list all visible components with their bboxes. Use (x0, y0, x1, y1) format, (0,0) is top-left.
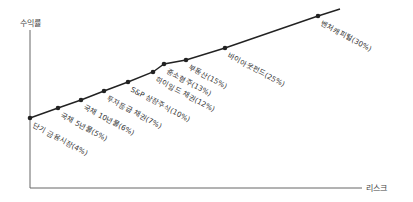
data-point (28, 116, 33, 121)
data-point (79, 98, 84, 103)
data-point (56, 106, 61, 111)
risk-return-diagram: 수익률 리스크 단기 금융시장(4%)국채 5년물(5%)국채 10년물(6%)… (0, 0, 413, 202)
data-point (223, 46, 228, 51)
data-point (126, 80, 131, 85)
data-point (151, 70, 156, 75)
point-label: 벤처캐피털(30%) (319, 19, 373, 54)
data-points: 단기 금융시장(4%)국채 5년물(5%)국채 10년물(6%)투자등급 채권(… (28, 14, 374, 158)
data-point (184, 58, 189, 63)
point-label: 바이아웃펀드(25%) (226, 51, 287, 89)
data-point (162, 62, 167, 67)
x-axis-label: 리스크 (366, 184, 387, 193)
data-point (316, 14, 321, 19)
risk-return-line (30, 9, 340, 118)
y-axis-label: 수익률 (20, 18, 41, 28)
data-point (102, 89, 107, 94)
